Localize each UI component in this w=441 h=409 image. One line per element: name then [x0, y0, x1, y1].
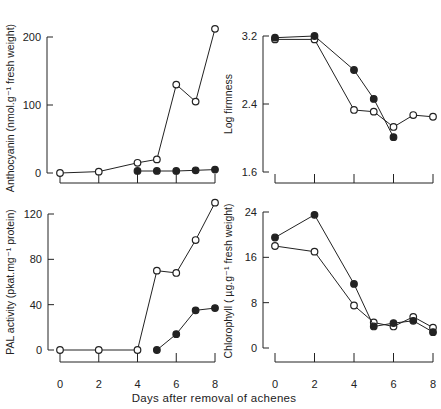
- filled-circle-marker: [311, 212, 318, 219]
- series-filled-circles: [272, 33, 397, 141]
- x-tick-label: 4: [134, 378, 140, 390]
- open-circle-marker: [410, 112, 417, 119]
- open-circle-marker: [173, 270, 180, 277]
- y-tick-label: 2.4: [242, 98, 257, 110]
- filled-circle-marker: [351, 281, 358, 288]
- y-tick-label: 1.6: [242, 166, 257, 178]
- y-tick-label: 0: [251, 342, 257, 354]
- open-circle-marker: [370, 108, 377, 115]
- y-axis-label: Chlorophyll ( µg.g⁻¹ fresh weight): [222, 203, 234, 358]
- filled-circle-marker: [154, 168, 161, 175]
- open-circle-marker: [154, 267, 161, 274]
- x-tick-label: 2: [311, 378, 317, 390]
- open-circle-marker: [134, 347, 141, 354]
- filled-circle-marker: [212, 305, 219, 312]
- y-tick-label: 100: [23, 99, 41, 111]
- y-tick-label: 8: [251, 297, 257, 309]
- filled-circle-marker: [351, 67, 358, 74]
- figure: 0100200Anthocyanin (nmol.g⁻¹ fresh weigh…: [0, 0, 441, 409]
- open-circle-marker: [390, 124, 397, 131]
- x-axis-label: Days after removal of achenes: [132, 392, 297, 404]
- open-circle-marker: [192, 98, 199, 105]
- y-tick-label: 16: [245, 251, 257, 263]
- open-circle-marker: [95, 168, 102, 175]
- open-circle-marker: [154, 156, 161, 163]
- filled-circle-marker: [430, 329, 437, 336]
- filled-circle-marker: [154, 347, 161, 354]
- x-tick-label: 6: [390, 378, 396, 390]
- x-tick-label: 6: [173, 378, 179, 390]
- y-tick-label: 0: [35, 167, 41, 179]
- y-axis-label: Anthocyanin (nmol.g⁻¹ fresh weight): [4, 24, 16, 192]
- y-tick-label: 0: [36, 344, 42, 356]
- x-axis: 02468: [57, 353, 218, 390]
- filled-circle-marker: [390, 320, 397, 327]
- open-circle-marker: [57, 347, 64, 354]
- x-axis: [275, 174, 433, 183]
- pal-activity-panel: 04080120PAL activity (pkat.mg⁻¹ protein)…: [4, 199, 218, 390]
- open-circle-marker: [351, 302, 358, 309]
- x-tick-label: 4: [351, 378, 357, 390]
- open-circle-marker: [57, 170, 64, 177]
- filled-circle-marker: [212, 166, 219, 173]
- series-filled-circles: [154, 305, 219, 354]
- filled-circle-marker: [134, 168, 141, 175]
- open-circle-marker: [212, 199, 219, 206]
- y-axis: 1.62.43.2: [242, 30, 269, 178]
- y-axis-label: PAL activity (pkat.mg⁻¹ protein): [4, 209, 16, 354]
- filled-circle-marker: [410, 318, 417, 325]
- filled-circle-marker: [272, 34, 279, 41]
- y-tick-label: 120: [24, 208, 42, 220]
- x-tick-label: 0: [57, 378, 63, 390]
- x-tick-label: 8: [212, 378, 218, 390]
- open-circle-marker: [192, 237, 199, 244]
- firmness-panel: 1.62.43.2Log firmness: [222, 30, 436, 183]
- open-circle-marker: [212, 26, 219, 33]
- y-tick-label: 200: [23, 31, 41, 43]
- y-tick-label: 40: [30, 299, 42, 311]
- open-circle-marker: [272, 243, 279, 250]
- filled-circle-marker: [390, 134, 397, 141]
- chlorophyll-panel: 081624Chlorophyll ( µg.g⁻¹ fresh weight)…: [222, 203, 436, 390]
- y-axis: 0100200: [23, 31, 53, 179]
- open-circle-marker: [173, 81, 180, 88]
- open-circle-marker: [95, 347, 102, 354]
- y-axis: 081624: [245, 206, 269, 354]
- filled-circle-marker: [192, 167, 199, 174]
- y-tick-label: 24: [245, 206, 257, 218]
- filled-circle-marker: [173, 168, 180, 175]
- x-axis: [60, 174, 215, 183]
- y-tick-label: 3.2: [242, 30, 257, 42]
- filled-circle-marker: [370, 323, 377, 330]
- series-open-circles: [272, 36, 437, 130]
- filled-circle-marker: [370, 96, 377, 103]
- open-circle-marker: [351, 107, 358, 114]
- y-axis: 04080120: [24, 208, 54, 356]
- open-circle-marker: [311, 248, 318, 255]
- filled-circle-marker: [272, 234, 279, 241]
- x-axis: 02468: [272, 353, 436, 390]
- open-circle-marker: [430, 113, 437, 120]
- y-tick-label: 80: [30, 253, 42, 265]
- series-open-circles: [57, 199, 219, 353]
- filled-circle-marker: [192, 307, 199, 314]
- open-circle-marker: [134, 160, 141, 167]
- filled-circle-marker: [311, 33, 318, 40]
- y-axis-label: Log firmness: [222, 74, 234, 134]
- series-filled-circles: [134, 166, 218, 174]
- series-open-circles: [57, 26, 219, 177]
- filled-circle-marker: [173, 331, 180, 338]
- anthocyanin-panel: 0100200Anthocyanin (nmol.g⁻¹ fresh weigh…: [4, 24, 218, 192]
- x-tick-label: 2: [96, 378, 102, 390]
- x-tick-label: 8: [430, 378, 436, 390]
- x-tick-label: 0: [272, 378, 278, 390]
